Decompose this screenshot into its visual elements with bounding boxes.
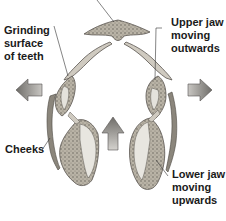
up-arrow-icon [102,117,124,150]
right-cheek [166,92,177,172]
right-upper-jaw [124,42,172,118]
left-arrow-icon [16,79,42,101]
label-lower-jaw: Lower jaw moving upwards [172,168,225,207]
jaw-diagram: Grinding surface of teeth Upper jaw movi… [0,0,226,221]
label-cheeks: Cheeks [5,143,44,156]
palate [84,20,150,41]
label-upper-jaw: Upper jaw moving outwards [171,16,224,55]
label-grinding-surface: Grinding surface of teeth [4,24,50,63]
left-lower-jaw [60,112,99,186]
left-upper-jaw [55,42,112,116]
right-arrow-icon [188,79,212,101]
right-lower-jaw [129,110,164,189]
